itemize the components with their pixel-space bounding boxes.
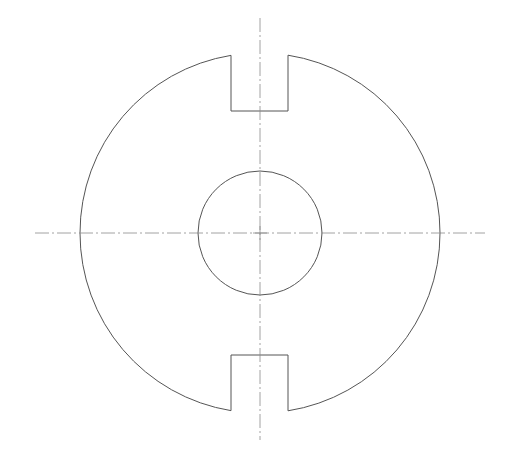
technical-drawing [0, 0, 513, 458]
